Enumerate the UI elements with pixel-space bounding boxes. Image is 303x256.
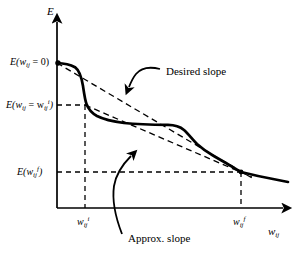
annotation-approx-slope: Approx. slope: [128, 233, 190, 244]
error-curve-plot: [0, 0, 303, 256]
label-part-mid: = 0): [30, 56, 49, 67]
annotation-desired-slope: Desired slope: [166, 66, 226, 77]
start-point-marker: [55, 60, 60, 65]
convergence-point-marker: [239, 170, 244, 175]
approx-slope-arrow: [113, 156, 131, 234]
y-value-label-e-at-zero: E(wij = 0): [10, 57, 49, 69]
figure-container: E wij E(wij = 0) E(wij = wiji) E(wijf) w…: [0, 0, 303, 256]
x-tick-label-w-final: wijf: [233, 216, 246, 229]
label-part-sup: f: [244, 215, 246, 223]
label-part-base: w: [77, 216, 84, 227]
y-axis-title: E: [47, 6, 54, 17]
label-part-mid: = w: [26, 99, 44, 110]
error-curve-path: [57, 63, 288, 182]
approx-slope-line: [85, 105, 252, 177]
label-part-close: ): [39, 166, 42, 177]
x-tick-label-w-initial: wiji: [77, 216, 90, 229]
x-axis-title: wij: [268, 226, 279, 239]
label-part-base: E(w: [6, 99, 22, 110]
y-value-label-e-at-final: E(wijf): [17, 166, 42, 179]
y-value-label-e-at-initial: E(wij = wiji): [6, 99, 53, 112]
label-part-base: E(w: [17, 166, 33, 177]
label-part-base: E(w: [10, 56, 26, 67]
label-part-close: ): [50, 99, 53, 110]
label-part-base: w: [233, 216, 240, 227]
x-axis-title-sub: ij: [275, 231, 279, 239]
desired-slope-arrow: [129, 68, 160, 87]
label-part-sup: i: [88, 215, 90, 223]
